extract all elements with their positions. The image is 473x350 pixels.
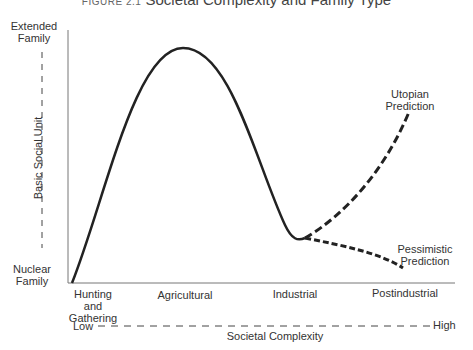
- x-axis-label: Societal Complexity: [210, 330, 340, 342]
- family-text: Family: [4, 32, 64, 44]
- utopian-text: Utopian: [375, 88, 445, 100]
- historical-trend-line: [72, 48, 305, 283]
- y-bottom-label: Nuclear Family: [0, 263, 64, 287]
- x-low-label: Low: [73, 320, 93, 332]
- extended-text: Extended: [4, 20, 64, 32]
- hunting-text: Hunting: [64, 288, 122, 300]
- utopian-prediction-line: [305, 112, 409, 238]
- prediction-text: Prediction: [385, 255, 465, 267]
- prediction-text: Prediction: [375, 100, 445, 112]
- x-tick-hunting: Hunting and Gathering: [64, 288, 122, 324]
- and-text: and: [64, 300, 122, 312]
- pessimistic-annotation: Pessimistic Prediction: [385, 243, 465, 267]
- pessimistic-text: Pessimistic: [385, 243, 465, 255]
- y-top-label: Extended Family: [4, 20, 64, 44]
- utopian-annotation: Utopian Prediction: [375, 88, 445, 112]
- x-tick-postindustrial: Postindustrial: [360, 287, 450, 299]
- x-tick-industrial: Industrial: [260, 288, 330, 300]
- y-axis-label: Basic Social Unit: [32, 113, 44, 203]
- nuclear-text: Nuclear: [0, 263, 64, 275]
- x-high-label: High: [433, 319, 456, 331]
- x-tick-agricultural: Agricultural: [145, 289, 225, 301]
- family-text: Family: [0, 275, 64, 287]
